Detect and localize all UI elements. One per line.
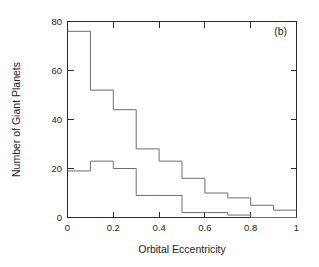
histogram-upper (68, 31, 297, 210)
ytick-label-80: 80 (51, 16, 62, 27)
x-axis-ticks (68, 22, 297, 218)
xtick-label-04: 0.4 (152, 222, 165, 233)
panel-label: (b) (274, 25, 287, 37)
axis-frame (68, 22, 297, 218)
xtick-label-02: 0.2 (107, 222, 120, 233)
y-axis-ticks (68, 22, 297, 218)
x-tick-labels: 0 0.2 0.4 0.6 0.8 1 (65, 222, 299, 233)
histogram-plot: 0 0.2 0.4 0.6 0.8 1 0 20 40 60 80 Orbita… (0, 0, 319, 267)
x-axis-title: Orbital Eccentricity (138, 243, 226, 255)
y-tick-labels: 0 20 40 60 80 (51, 16, 62, 223)
xtick-label-06: 0.6 (198, 222, 211, 233)
ytick-label-60: 60 (51, 65, 62, 76)
chart-figure: 0 0.2 0.4 0.6 0.8 1 0 20 40 60 80 Orbita… (0, 0, 319, 267)
ytick-label-20: 20 (51, 163, 62, 174)
plot-frame (68, 22, 297, 218)
y-axis-title: Number of Giant Planets (10, 62, 22, 177)
xtick-label-08: 0.8 (244, 222, 257, 233)
ytick-label-0: 0 (57, 212, 62, 223)
xtick-label-0: 0 (65, 222, 70, 233)
xtick-label-1: 1 (294, 222, 299, 233)
ytick-label-40: 40 (51, 114, 62, 125)
hist-upper-path (68, 31, 297, 210)
